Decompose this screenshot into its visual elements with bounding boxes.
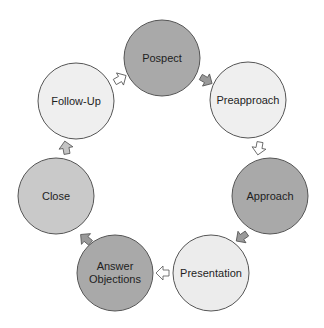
arrow-icon-presentation-to-answer-objections bbox=[156, 266, 169, 280]
node-label-presentation: Presentation bbox=[173, 267, 249, 280]
node-label-follow-up: Follow-Up bbox=[38, 95, 114, 108]
node-label-close: Close bbox=[18, 190, 94, 203]
node-label-answer-objections: Answer Objections bbox=[77, 260, 153, 286]
node-label-approach: Approach bbox=[232, 190, 308, 203]
node-label-preapproach: Preapproach bbox=[210, 94, 286, 107]
node-label-pospect: Pospect bbox=[124, 52, 200, 65]
arrow-icon-close-to-follow-up bbox=[58, 140, 74, 155]
arrow-icon-preapproach-to-approach bbox=[251, 141, 267, 156]
sales-cycle-diagram bbox=[0, 0, 324, 328]
